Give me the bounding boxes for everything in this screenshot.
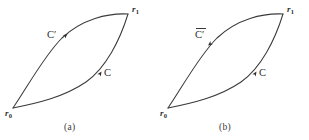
panel-b-upper-curve-label-overbar: C′ (195, 30, 204, 41)
panel-b-canvas (155, 0, 309, 140)
panel-b-upper-curve-label: C′ (195, 30, 204, 41)
panel-a-lower-curve-label: C (104, 68, 111, 79)
panel-b-lower-curve-label-text: C (259, 67, 266, 78)
panel-b-lower-curve-path (168, 14, 283, 108)
panel-a-canvas (0, 0, 154, 140)
panel-a-end-point-label: r1 (132, 5, 139, 15)
panel-a-start-label-sub: 0 (9, 112, 12, 119)
panel-b-upper-curve-label-text: C (195, 29, 202, 40)
panel-a-start-label-base: r (5, 108, 9, 118)
panel-a-end-label-base: r (132, 4, 136, 14)
panel-b-end-label-base: r (287, 4, 291, 14)
panel-b-start-point-label: r0 (160, 109, 167, 119)
panel-a-upper-curve-path (13, 14, 128, 108)
panel-a-upper-curve-label-prime: ′ (54, 29, 56, 40)
panel-b: r0 r1 C′ C (b) (155, 0, 309, 140)
panel-b-end-label-sub: 1 (291, 8, 294, 15)
panel-a-lower-curve-path (13, 14, 128, 108)
panel-b-lower-curve-label: C (259, 68, 266, 79)
panel-a-upper-curve-label: C′ (47, 30, 56, 41)
figure-root: r0 r1 C′ C (a) r0 r1 (0, 0, 309, 140)
panel-a-caption: (a) (64, 122, 75, 132)
panel-b-upper-curve-label-prime: ′ (202, 29, 204, 40)
panel-b-start-label-base: r (160, 108, 164, 118)
panel-b-end-point-label: r1 (287, 5, 294, 15)
panel-a-end-label-sub: 1 (136, 8, 139, 15)
panel-a-lower-curve-label-text: C (104, 67, 111, 78)
panel-a: r0 r1 C′ C (a) (0, 0, 154, 140)
panel-b-start-label-sub: 0 (164, 112, 167, 119)
panel-a-upper-curve-label-text: C (47, 29, 54, 40)
panel-a-start-point-label: r0 (5, 109, 12, 119)
panel-b-upper-curve-path (168, 14, 283, 108)
panel-b-caption: (b) (219, 122, 231, 132)
